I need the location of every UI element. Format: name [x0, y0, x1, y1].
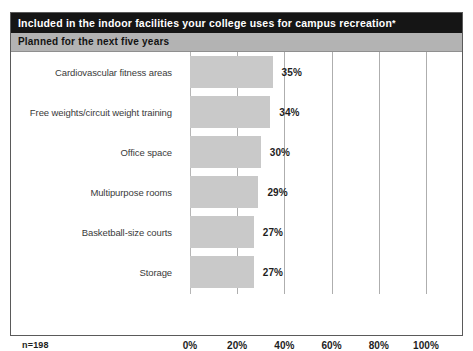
category-label: Free weights/circuit weight training [30, 107, 172, 118]
bar-row: Basketball-size courts27% [11, 212, 462, 252]
bar-value-label: 27% [263, 227, 283, 238]
bar-value-label: 29% [267, 187, 287, 198]
bar [190, 96, 270, 128]
bar-row: Multipurpose rooms29% [11, 172, 462, 212]
bar [190, 176, 258, 208]
x-axis-tick-label: 20% [227, 340, 247, 351]
chart-figure: Included in the indoor facilities your c… [10, 12, 463, 336]
bar-row: Free weights/circuit weight training34% [11, 92, 462, 132]
category-label: Cardiovascular fitness areas [55, 67, 172, 78]
bar [190, 256, 254, 288]
chart-title-bar: Included in the indoor facilities your c… [11, 13, 462, 33]
bar-value-label: 34% [279, 107, 299, 118]
bar-row: Storage27% [11, 252, 462, 292]
bar-value-label: 30% [270, 147, 290, 158]
chart-subtitle-bar: Planned for the next five years [11, 33, 462, 52]
bar-row: Office space30% [11, 132, 462, 172]
bar [190, 216, 254, 248]
bar-row: Cardiovascular fitness areas35% [11, 52, 462, 92]
title-footnote-marker: * [392, 19, 396, 28]
bar-value-label: 35% [282, 67, 302, 78]
bar [190, 56, 273, 88]
category-label: Office space [121, 147, 172, 158]
category-label: Storage [139, 267, 172, 278]
x-axis-tick-label: 0% [183, 340, 198, 351]
plot-area: Cardiovascular fitness areas35%Free weig… [11, 52, 462, 335]
x-axis-tick-label: 60% [321, 340, 341, 351]
x-axis-tick-label: 100% [413, 340, 439, 351]
x-axis-tick-label: 80% [369, 340, 389, 351]
bar-value-label: 27% [263, 267, 283, 278]
bar [190, 136, 261, 168]
category-label: Basketball-size courts [82, 227, 172, 238]
x-axis-tick-label: 40% [274, 340, 294, 351]
page-title: Included in the indoor facilities your c… [18, 18, 392, 29]
category-label: Multipurpose rooms [90, 187, 172, 198]
bar-row-group: Cardiovascular fitness areas35%Free weig… [11, 52, 462, 292]
chart-subtitle: Planned for the next five years [18, 37, 169, 47]
sample-size-note: n=198 [22, 340, 49, 350]
